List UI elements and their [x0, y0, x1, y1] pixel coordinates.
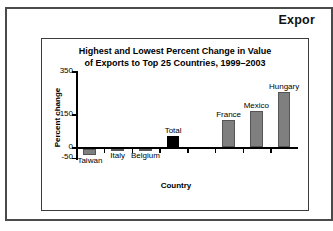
x-tick-mark: [243, 149, 245, 153]
x-axis-title: Country: [42, 181, 310, 190]
bar-hungary: [278, 92, 291, 147]
plot-wrapper: Percent change 3501500-50 TaiwanItalyBel…: [42, 69, 310, 212]
bar-label-hungary: Hungary: [254, 82, 315, 91]
y-tick-label: 350: [60, 66, 73, 75]
chart-container: Highest and Lowest Percent Change in Val…: [41, 38, 309, 211]
bar-label-belgium: Belgium: [115, 151, 176, 160]
plot-area: 3501500-50 TaiwanItalyBelgiumTotalFrance…: [76, 69, 298, 169]
page-header: Expor: [7, 9, 331, 35]
x-tick-mark: [215, 149, 217, 153]
chart-title-line-1: Highest and Lowest Percent Change in Val…: [48, 45, 302, 57]
chart-title-line-2: of Exports to Top 25 Countries, 1999–200…: [48, 57, 302, 69]
header-title: Expor: [279, 13, 315, 27]
x-tick-mark: [270, 149, 272, 153]
x-tick-mark: [187, 149, 189, 153]
page-frame: Expor Highest and Lowest Percent Change …: [5, 7, 333, 221]
chart-title: Highest and Lowest Percent Change in Val…: [42, 45, 308, 69]
y-tick-label: 150: [60, 109, 73, 118]
y-tick-label: 0: [69, 142, 73, 151]
bar-label-total: Total: [143, 126, 204, 135]
bar-total: [167, 136, 180, 147]
bar-mexico: [250, 111, 263, 147]
bar-france: [222, 120, 235, 147]
